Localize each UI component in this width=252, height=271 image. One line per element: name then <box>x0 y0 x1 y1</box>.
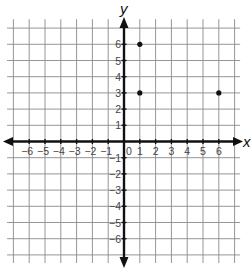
x-axis-arrow-left-icon <box>3 137 13 146</box>
x-tick-label: 0 <box>126 145 132 157</box>
x-tick-label: −4 <box>53 145 65 157</box>
x-tick-labels: −6−5−4−3−2−10123456 <box>21 145 222 157</box>
y-tick-label: 2 <box>115 103 121 115</box>
x-tick-label: 3 <box>168 145 174 157</box>
y-tick-label: −4 <box>109 200 121 212</box>
y-tick-label: −3 <box>109 184 121 196</box>
data-point <box>137 42 142 47</box>
y-tick-label: 1 <box>115 119 121 131</box>
data-point <box>216 90 221 95</box>
y-axis-label: y <box>119 0 129 17</box>
y-axis-arrow-down-icon <box>120 257 129 268</box>
y-tick-label: −6 <box>109 233 121 245</box>
y-tick-label: 6 <box>115 38 121 50</box>
y-tick-label: 4 <box>115 71 121 83</box>
y-tick-label: 3 <box>115 87 121 99</box>
x-tick-label: −6 <box>21 145 33 157</box>
x-tick-label: −5 <box>37 145 49 157</box>
data-points <box>137 42 221 96</box>
x-tick-label: −2 <box>84 145 96 157</box>
x-tick-label: 4 <box>184 145 190 157</box>
x-tick-label: 5 <box>200 145 206 157</box>
y-tick-label: −2 <box>109 168 121 180</box>
x-axis-label: x <box>242 133 251 150</box>
x-tick-label: 2 <box>153 145 159 157</box>
x-tick-label: 6 <box>216 145 222 157</box>
coordinate-plane: −6−5−4−3−2−10123456 654321−1−2−3−4−5−6 x… <box>0 0 252 271</box>
x-tick-label: −3 <box>69 145 81 157</box>
x-axis-arrow-right-icon <box>233 137 243 146</box>
y-tick-label: −1 <box>109 152 121 164</box>
x-tick-label: 1 <box>137 145 143 157</box>
y-axis-arrow-up-icon <box>120 17 129 28</box>
data-point <box>137 90 142 95</box>
y-tick-label: −5 <box>109 217 121 229</box>
y-tick-label: 5 <box>115 55 121 67</box>
axes <box>3 17 243 268</box>
